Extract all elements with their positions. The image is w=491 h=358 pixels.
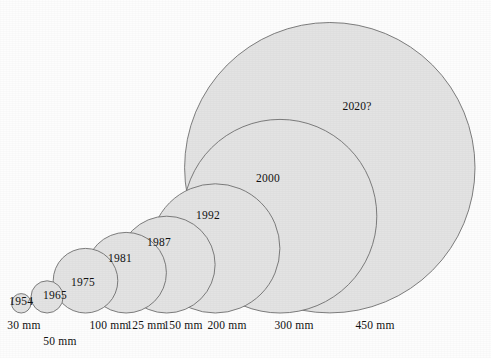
size-label-150mm: 150 mm <box>163 319 202 331</box>
year-label-1981: 1981 <box>108 252 132 264</box>
size-label-450mm: 450 mm <box>355 319 394 331</box>
year-label-2020: 2020? <box>342 100 371 112</box>
wafer-diameter-bubble-chart: 19541965197519811987199220002020? 30 mm5… <box>0 0 491 358</box>
size-label-30mm: 30 mm <box>7 319 40 331</box>
year-label-1954: 1954 <box>9 295 33 307</box>
year-label-1992: 1992 <box>196 209 220 221</box>
year-label-2000: 2000 <box>256 172 280 184</box>
size-label-200mm: 200 mm <box>207 319 246 331</box>
wafer-circles-group <box>12 23 476 314</box>
size-label-300mm: 300 mm <box>274 319 313 331</box>
year-label-1987: 1987 <box>147 236 171 248</box>
size-label-50mm: 50 mm <box>43 335 76 347</box>
size-label-100mm: 100 mm <box>89 319 128 331</box>
size-labels-group: 30 mm50 mm100 mm125 mm150 mm200 mm300 mm… <box>7 319 394 347</box>
wafer-size-figure: 19541965197519811987199220002020? 30 mm5… <box>0 0 491 358</box>
size-label-125mm: 125 mm <box>126 319 165 331</box>
year-label-1965: 1965 <box>43 289 67 301</box>
year-label-1975: 1975 <box>71 276 95 288</box>
